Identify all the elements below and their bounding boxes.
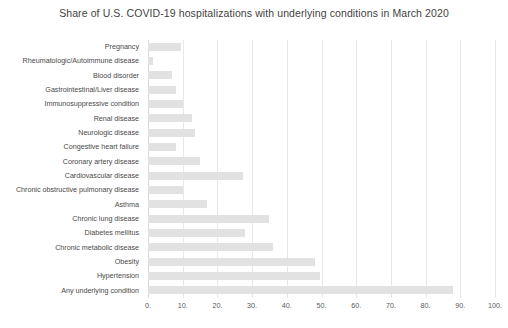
bar-row <box>148 97 495 111</box>
x-axis-label: 100. <box>488 300 502 312</box>
gridline-100 <box>495 40 496 298</box>
y-axis-label: Rheumatologic/Autoimmune disease <box>0 54 144 68</box>
bar-row <box>148 54 495 68</box>
y-axis-label: Congestive heart failure <box>0 140 144 154</box>
y-axis-label: Renal disease <box>0 112 144 126</box>
y-axis-label: Asthma <box>0 198 144 212</box>
bar <box>148 114 192 122</box>
bar <box>148 71 172 79</box>
y-axis-label: Blood disorder <box>0 69 144 83</box>
x-axis-label: 10. <box>178 300 188 312</box>
bar <box>148 143 176 151</box>
y-axis-label: Coronary artery disease <box>0 155 144 169</box>
bar <box>148 172 243 180</box>
bar-row <box>148 255 495 269</box>
x-axis-label: 80. <box>421 300 431 312</box>
x-axis-label: 0. <box>145 300 151 312</box>
bar-row <box>148 198 495 212</box>
x-axis-label: 60. <box>351 300 361 312</box>
bar-row <box>148 241 495 255</box>
x-axis-label: 30. <box>247 300 257 312</box>
y-axis-category-labels: PregnancyRheumatologic/Autoimmune diseas… <box>0 40 144 298</box>
bar-row <box>148 69 495 83</box>
bar-row <box>148 126 495 140</box>
bar-row <box>148 226 495 240</box>
bar <box>148 215 269 223</box>
y-axis-label: Hypertension <box>0 269 144 283</box>
bar-chart: Share of U.S. COVID-19 hospitalizations … <box>0 0 508 328</box>
chart-title: Share of U.S. COVID-19 hospitalizations … <box>40 6 468 21</box>
y-axis-label: Cardiovascular disease <box>0 169 144 183</box>
x-axis-label: 70. <box>386 300 396 312</box>
x-axis-label: 50. <box>317 300 327 312</box>
bar-row <box>148 112 495 126</box>
y-axis-label: Chronic obstructive pulmonary disease <box>0 183 144 197</box>
bar <box>148 57 153 65</box>
bar <box>148 129 195 137</box>
y-axis-label: Obesity <box>0 255 144 269</box>
bar-row <box>148 269 495 283</box>
bar <box>148 86 176 94</box>
bar <box>148 229 245 237</box>
bar-row <box>148 140 495 154</box>
bar <box>148 272 320 280</box>
bar <box>148 100 183 108</box>
x-axis-value-labels: 0.10.20.30.40.50.60.70.80.90.100. <box>148 300 495 314</box>
bar-row <box>148 40 495 54</box>
bar-row <box>148 284 495 298</box>
y-axis-label: Neurologic disease <box>0 126 144 140</box>
y-axis-label: Chronic metabolic disease <box>0 241 144 255</box>
x-axis-label: 40. <box>282 300 292 312</box>
bar <box>148 43 181 51</box>
y-axis-label: Any underlying condition <box>0 284 144 298</box>
bar-row <box>148 183 495 197</box>
y-axis-label: Diabetes mellitus <box>0 226 144 240</box>
bar <box>148 286 453 294</box>
y-axis-label: Pregnancy <box>0 40 144 54</box>
bar-row <box>148 83 495 97</box>
bar <box>148 200 207 208</box>
y-axis-label: Chronic lung disease <box>0 212 144 226</box>
bar-row <box>148 169 495 183</box>
y-axis-label: Immunosuppressive condition <box>0 97 144 111</box>
bar <box>148 258 315 266</box>
bar <box>148 186 183 194</box>
plot-area <box>148 40 495 298</box>
bar-row <box>148 155 495 169</box>
x-axis-label: 20. <box>212 300 222 312</box>
bars-layer <box>148 40 495 298</box>
x-axis-label: 90. <box>455 300 465 312</box>
bar <box>148 157 200 165</box>
y-axis-label: Gastrointestinal/Liver disease <box>0 83 144 97</box>
bar-row <box>148 212 495 226</box>
bar <box>148 243 273 251</box>
